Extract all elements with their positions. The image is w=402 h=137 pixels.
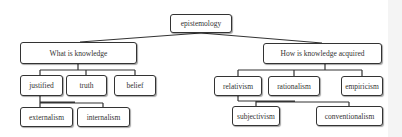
node-what-is-knowledge: What is knowledge bbox=[20, 42, 137, 64]
node-internalism: internalism bbox=[77, 107, 130, 127]
node-externalism: externalism bbox=[20, 107, 73, 127]
node-relativism: relativism bbox=[214, 76, 262, 96]
node-how-is-knowledge-acquired: How is knowledge acquired bbox=[263, 43, 382, 64]
node-empiricism: empiricism bbox=[341, 76, 383, 96]
node-conventionalism: conventionalism bbox=[316, 106, 383, 126]
node-justified: justified bbox=[20, 75, 63, 96]
node-epistemology: epistemology bbox=[170, 14, 232, 33]
node-subjectivism: subjectivism bbox=[232, 106, 280, 126]
node-truth: truth bbox=[66, 75, 107, 96]
node-rationalism: rationalism bbox=[268, 76, 320, 96]
node-belief: belief bbox=[114, 75, 156, 96]
